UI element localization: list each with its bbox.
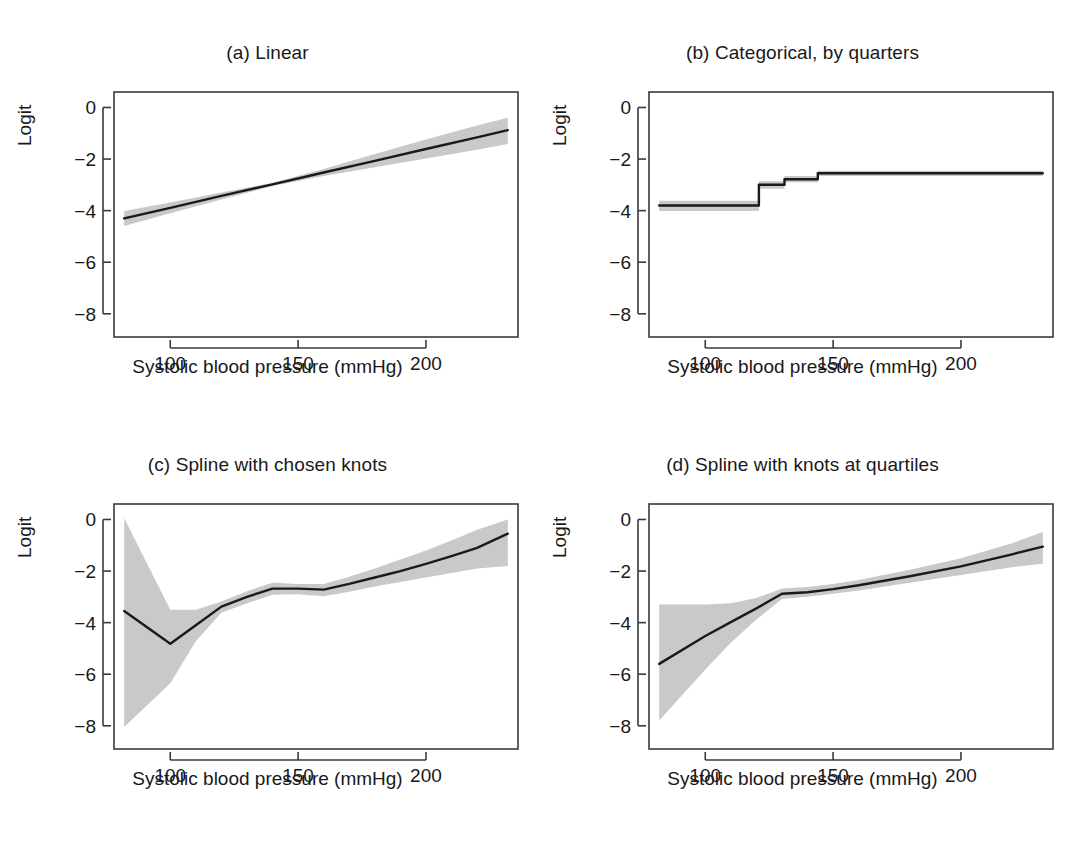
x-tick-label: 100 [154, 765, 186, 786]
x-tick-label: 100 [689, 765, 721, 786]
x-tick-label: 200 [410, 353, 442, 374]
y-tick-label: −4 [74, 613, 96, 634]
y-tick-label: −4 [609, 201, 631, 222]
x-tick-label: 100 [154, 353, 186, 374]
panel-a-plot: 0−2−4−6−8100150200 [0, 6, 535, 426]
y-tick-label: −4 [74, 201, 96, 222]
y-tick-label: −8 [609, 716, 631, 737]
x-tick-label: 150 [282, 765, 314, 786]
plot-frame [649, 92, 1053, 337]
panel-c-plot: 0−2−4−6−8100150200 [0, 418, 535, 838]
y-tick-label: −8 [74, 716, 96, 737]
y-tick-label: −2 [74, 149, 96, 170]
fitted-line [124, 130, 508, 218]
y-tick-label: −2 [609, 561, 631, 582]
x-tick-label: 200 [410, 765, 442, 786]
y-tick-label: −2 [609, 149, 631, 170]
y-tick-label: −6 [609, 664, 631, 685]
plot-frame [114, 92, 518, 337]
confidence-band [124, 518, 508, 727]
panel-d-spline-quartile-knots: (d) Spline with knots at quartiles Logit… [535, 418, 1070, 838]
y-tick-label: −6 [74, 252, 96, 273]
y-tick-label: 0 [620, 509, 631, 530]
x-tick-label: 100 [689, 353, 721, 374]
figure-container: (a) Linear Logit Systolic blood pressure… [0, 0, 1070, 851]
panel-b-categorical: (b) Categorical, by quarters Logit Systo… [535, 6, 1070, 426]
y-tick-label: −6 [74, 664, 96, 685]
x-tick-label: 200 [945, 353, 977, 374]
panel-d-plot: 0−2−4−6−8100150200 [535, 418, 1070, 838]
x-tick-label: 200 [945, 765, 977, 786]
y-tick-label: −2 [74, 561, 96, 582]
y-tick-label: −6 [609, 252, 631, 273]
panel-c-spline-chosen-knots: (c) Spline with chosen knots Logit Systo… [0, 418, 535, 838]
y-tick-label: 0 [85, 509, 96, 530]
x-tick-label: 150 [817, 765, 849, 786]
y-tick-label: −8 [74, 304, 96, 325]
confidence-band [124, 118, 508, 226]
fitted-line [659, 173, 1043, 205]
panel-a-linear: (a) Linear Logit Systolic blood pressure… [0, 6, 535, 426]
y-tick-label: −4 [609, 613, 631, 634]
y-tick-label: 0 [85, 97, 96, 118]
x-tick-label: 150 [817, 353, 849, 374]
y-tick-label: −8 [609, 304, 631, 325]
y-tick-label: 0 [620, 97, 631, 118]
panel-b-plot: 0−2−4−6−8100150200 [535, 6, 1070, 426]
x-tick-label: 150 [282, 353, 314, 374]
